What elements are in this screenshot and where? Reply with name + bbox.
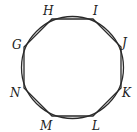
vertex-label-n: N — [9, 86, 21, 100]
circumscribed-circle — [22, 17, 124, 119]
octagon — [24, 19, 121, 116]
vertex-labels: HIJKLMNG — [9, 4, 132, 132]
vertex-label-k: K — [121, 86, 132, 100]
vertex-label-l: L — [91, 119, 100, 132]
vertex-label-h: H — [42, 4, 54, 18]
vertex-label-i: I — [92, 4, 98, 18]
vertex-label-m: M — [39, 119, 53, 132]
vertex-label-g: G — [12, 38, 22, 52]
octagon-diagram: HIJKLMNG — [0, 0, 137, 132]
